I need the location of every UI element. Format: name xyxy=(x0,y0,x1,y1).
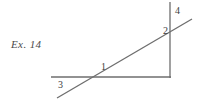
exercise-caption: Ex. 14 xyxy=(11,38,42,50)
angle-label-4: 4 xyxy=(175,6,180,16)
transversal-line xyxy=(57,19,192,98)
angle-label-2: 2 xyxy=(163,26,168,36)
figure-canvas xyxy=(0,0,199,104)
angle-label-1: 1 xyxy=(101,62,106,72)
angle-label-3: 3 xyxy=(58,80,63,90)
geometry-figure: Ex. 14 1 2 3 4 xyxy=(0,0,199,104)
